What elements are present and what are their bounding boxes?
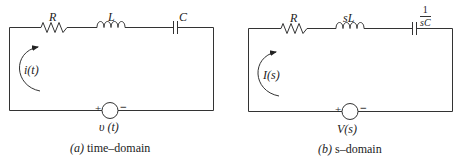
- circuit-diagrams: [0, 0, 466, 163]
- caption-letter: (b): [318, 142, 332, 156]
- current-label: i(t): [24, 64, 39, 76]
- source-plus-sign: +: [95, 102, 101, 114]
- caption-text: s–domain: [332, 142, 382, 156]
- resistor-label: R: [49, 11, 56, 23]
- caption-a: (a) time–domain: [70, 141, 150, 156]
- fraction-denominator: sC: [420, 17, 431, 28]
- source-label: V(s): [337, 123, 357, 135]
- source-plus-sign: +: [335, 103, 341, 115]
- resistor-icon: [41, 23, 67, 33]
- inductor-label: sL: [343, 12, 354, 24]
- source-minus-sign: −: [120, 101, 127, 113]
- caption-letter: (a): [70, 141, 84, 155]
- source-minus-sign: −: [360, 102, 367, 114]
- capacitor-impedance-label: 1 sC: [420, 5, 431, 28]
- voltage-source-icon: [342, 104, 358, 120]
- capacitor-label: C: [179, 11, 187, 23]
- fraction-numerator: 1: [420, 5, 431, 17]
- voltage-source-icon: [102, 103, 118, 119]
- inductor-label: L: [108, 11, 115, 23]
- resistor-icon: [281, 24, 307, 34]
- caption-b: (b) s–domain: [318, 142, 382, 157]
- source-label: υ (t): [99, 121, 119, 133]
- current-label: I(s): [263, 69, 280, 81]
- caption-text: time–domain: [84, 141, 150, 155]
- resistor-label: R: [290, 12, 297, 24]
- circuit-time-domain: [10, 21, 214, 119]
